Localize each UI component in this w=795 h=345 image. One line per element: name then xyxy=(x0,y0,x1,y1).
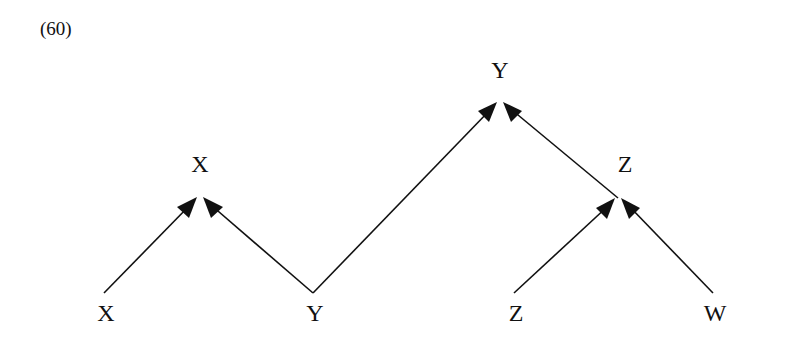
node-w-leaf: W xyxy=(704,301,727,325)
edge-yleaf-xmid xyxy=(211,205,313,293)
arrowhead-icon xyxy=(621,198,640,219)
edge-xleaf-xmid xyxy=(104,205,190,293)
edge-yleaf-yroot xyxy=(313,110,490,293)
node-z-mid: Z xyxy=(618,152,633,176)
tree-edges xyxy=(0,0,795,345)
node-z-leaf: Z xyxy=(509,301,524,325)
node-x-leaf: X xyxy=(97,301,114,325)
arrowhead-icon xyxy=(503,102,522,122)
edge-zleaf-zmid xyxy=(514,206,608,293)
node-x-mid: X xyxy=(191,152,208,176)
node-y-leaf: Y xyxy=(306,301,323,325)
edge-wleaf-zmid xyxy=(629,206,713,293)
arrowhead-icon xyxy=(203,197,223,218)
node-y-root: Y xyxy=(491,58,508,82)
arrowhead-icon xyxy=(596,198,615,219)
edge-zmid-yroot xyxy=(512,110,618,198)
